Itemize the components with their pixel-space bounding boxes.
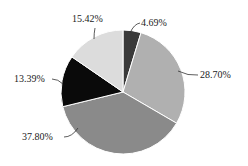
slice-label-15-42: 15.42% — [72, 13, 103, 24]
slice-label-13-39: 13.39% — [14, 73, 45, 84]
slice-label-28-70: 28.70% — [200, 69, 231, 80]
pie-slices — [61, 30, 185, 154]
slice-label-37-80: 37.80% — [22, 131, 53, 142]
slice-label-4-69: 4.69% — [141, 17, 167, 28]
